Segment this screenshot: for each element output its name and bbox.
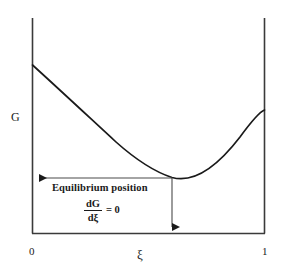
figure-container: G ξ 0 1 Equilibrium position dG dξ = 0 — [0, 0, 285, 279]
fraction-bar — [84, 210, 102, 211]
gibbs-energy-curve — [33, 65, 265, 179]
derivative-condition-annotation: dG dξ = 0 — [84, 198, 120, 223]
derivative-fraction: dG dξ — [84, 198, 102, 223]
equilibrium-position-label: Equilibrium position — [52, 183, 148, 194]
gibbs-energy-plot — [0, 0, 285, 279]
y-axis-label: G — [11, 111, 20, 123]
x-tick-label-1: 1 — [262, 246, 268, 257]
x-axis-label: ξ — [137, 248, 143, 261]
x-tick-label-0: 0 — [29, 246, 35, 257]
derivative-numerator: dG — [84, 198, 102, 209]
derivative-denominator: dξ — [86, 212, 101, 223]
derivative-equals-zero: = 0 — [106, 205, 120, 216]
